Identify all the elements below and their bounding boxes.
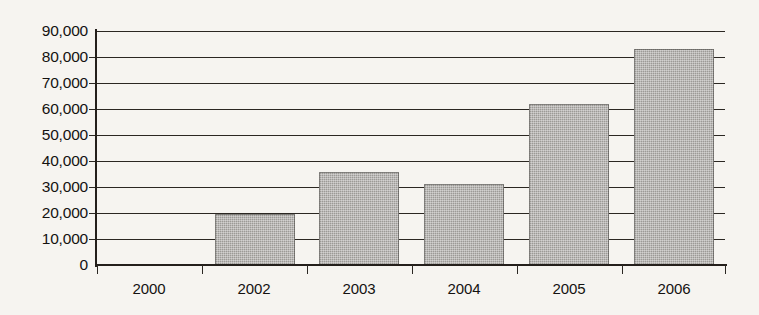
plot-area [97, 31, 725, 265]
x-tick-mark [307, 265, 308, 274]
y-tick-label: 80,000 [6, 49, 88, 65]
gridline [97, 31, 725, 32]
x-tick-label-2005: 2005 [524, 281, 614, 296]
gridline [97, 57, 725, 58]
x-tick-mark [412, 265, 413, 274]
gridline [97, 83, 725, 84]
bar-2002 [215, 214, 295, 265]
x-tick-mark [517, 265, 518, 274]
bar-2006 [634, 49, 714, 265]
y-tick-label: 20,000 [6, 205, 88, 221]
x-tick-label-2000: 2000 [104, 281, 194, 296]
bar-chart-figure: 90,000 80,000 70,000 60,000 50,000 40,00… [0, 0, 759, 315]
y-tick-label: 30,000 [6, 179, 88, 195]
y-tick-label: 90,000 [6, 23, 88, 39]
y-tick-label: 40,000 [6, 153, 88, 169]
y-axis-tick-labels: 90,000 80,000 70,000 60,000 50,000 40,00… [0, 0, 88, 315]
x-tick-mark [622, 265, 623, 274]
y-tick-label: 50,000 [6, 127, 88, 143]
gridline [97, 161, 725, 162]
bar-2003 [319, 172, 399, 265]
x-tick-label-2004: 2004 [419, 281, 509, 296]
x-tick-mark [97, 265, 98, 274]
gridline [97, 213, 725, 214]
x-axis-line [95, 264, 727, 266]
gridline [97, 239, 725, 240]
y-tick-label: 70,000 [6, 75, 88, 91]
gridline [97, 135, 725, 136]
gridline [97, 187, 725, 188]
y-tick-label: 60,000 [6, 101, 88, 117]
y-axis-line [95, 29, 97, 267]
x-tick-mark [725, 265, 726, 274]
x-tick-label-2006: 2006 [629, 281, 719, 296]
x-tick-mark [202, 265, 203, 274]
y-tick-label: 0 [6, 257, 88, 273]
bar-2004 [424, 184, 504, 265]
x-tick-label-2002: 2002 [209, 281, 299, 296]
gridline [97, 109, 725, 110]
x-tick-label-2003: 2003 [314, 281, 404, 296]
bar-2005 [529, 104, 609, 265]
y-tick-label: 10,000 [6, 231, 88, 247]
